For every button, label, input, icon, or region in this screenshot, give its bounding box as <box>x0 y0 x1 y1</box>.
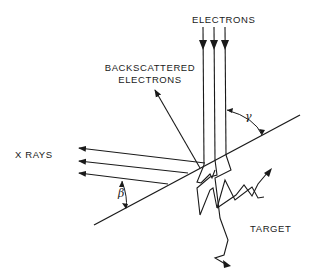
diagram-canvas: ELECTRONS BACKSCATTERED ELECTRONS X RAYS… <box>0 0 311 275</box>
backscattered-label-line1: BACKSCATTERED <box>100 62 200 74</box>
xray-beams <box>79 148 205 184</box>
xrays-label: X RAYS <box>15 149 53 161</box>
electrons-label: ELECTRONS <box>192 14 255 26</box>
angle-gamma-arrow-icon <box>227 108 233 113</box>
backscattered-label-line2: ELECTRONS <box>100 74 200 86</box>
backscattered-electron-arrow <box>155 90 200 168</box>
scattering-paths <box>197 155 268 265</box>
gamma-symbol: γ <box>245 110 252 123</box>
target-label: TARGET <box>250 223 291 235</box>
electron-arrowheads-icon <box>199 40 229 50</box>
scattered-electron-arrowheads-icon <box>223 168 272 268</box>
beta-symbol: β <box>118 187 124 200</box>
